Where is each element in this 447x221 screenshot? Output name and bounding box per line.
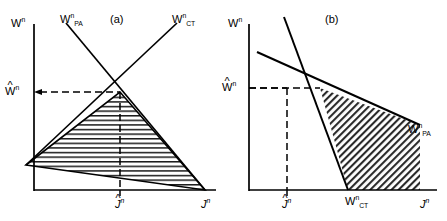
panel-b-curve-label-wpa: WnPA (408, 124, 431, 135)
panel-a-y-axis-label: Wn (11, 18, 25, 29)
panel-b-y-axis-label: Wn (228, 18, 242, 29)
panel-a-shaded-region (26, 92, 205, 190)
panel-a-x-tick-label: ^Jn (115, 199, 124, 210)
panel-a-x-axis-label: Jn (201, 199, 210, 210)
panel-a-label: (a) (110, 14, 123, 25)
panel-a-curve-label-wct: WnCT (172, 14, 195, 25)
panel-b-x-axis-label: Jn (420, 199, 429, 210)
panel-b-x-tick-label: ^Jn (282, 199, 291, 210)
panel-a-curve-label-wpa: WnPA (60, 14, 83, 25)
panel-a (26, 23, 216, 196)
panel-a-arrow-head (34, 89, 42, 95)
panel-b-x-hat: ^ (282, 193, 287, 204)
panel-b-y-tick-label: ^Wn (222, 82, 236, 93)
panel-a-y-tick-label: ^Wn (5, 86, 19, 97)
panel-a-y-hat: ^ (8, 80, 13, 91)
panel-b-label: (b) (325, 14, 338, 25)
panel-b-y-hat: ^ (225, 76, 230, 87)
economics-figure (0, 0, 447, 221)
panel-b-curve-label-wct: WnCT (345, 196, 368, 207)
panel-a-x-hat: ^ (115, 193, 120, 204)
panel-b (249, 17, 437, 196)
